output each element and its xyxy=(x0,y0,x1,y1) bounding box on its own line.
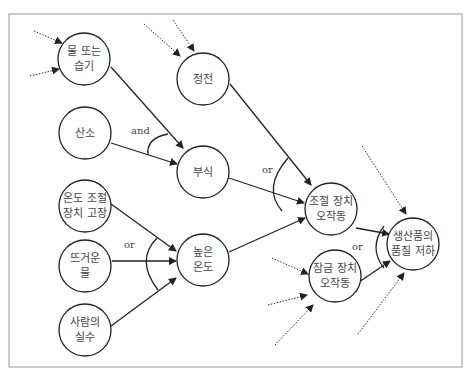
node-circle-hightemp xyxy=(177,234,229,286)
node-circle-control xyxy=(305,183,357,235)
dotted-arrow-lock-1 xyxy=(272,258,308,274)
gate-and-label: and xyxy=(131,125,150,136)
and-gate-arc xyxy=(148,134,168,155)
dotted-arrow-lock-2 xyxy=(268,295,307,305)
node-circle-power xyxy=(177,53,229,105)
node-circle-lock xyxy=(309,250,361,302)
or-gate-arc-control xyxy=(273,158,288,211)
arrow-thermostat-hightemp xyxy=(111,204,176,251)
dotted-arrow-lock-3 xyxy=(275,305,313,345)
arrow-control-quality xyxy=(356,228,389,234)
node-circle-quality xyxy=(387,218,439,270)
arrow-hightemp-control xyxy=(229,218,305,252)
node-circle-thermostat xyxy=(59,180,111,232)
dotted-arrow-power-2 xyxy=(173,20,194,51)
dotted-arrow-quality-bottom xyxy=(358,273,404,334)
node-circle-human xyxy=(59,304,111,356)
dotted-arrow-power-1 xyxy=(144,24,180,56)
arrow-lock-quality xyxy=(359,261,390,282)
gate-or-label-hightemp: or xyxy=(124,239,135,250)
node-circle-hotwater xyxy=(59,240,111,292)
node-circle-corrosion xyxy=(177,146,229,198)
arrow-oxygen-corrosion xyxy=(111,143,177,164)
node-circle-oxygen xyxy=(59,107,111,159)
gate-or-label-quality: or xyxy=(352,241,363,252)
dotted-arrow-water-1 xyxy=(34,31,62,43)
dotted-arrow-quality-top xyxy=(362,146,406,214)
node-circle-water xyxy=(58,33,110,85)
gate-or-label-control: or xyxy=(262,164,273,175)
dotted-arrow-water-2 xyxy=(30,69,59,76)
diagram-canvas xyxy=(0,0,472,376)
arrow-corrosion-control xyxy=(229,178,304,203)
arrow-human-hightemp xyxy=(111,278,176,326)
or-gate-arc-hightemp xyxy=(146,238,158,290)
